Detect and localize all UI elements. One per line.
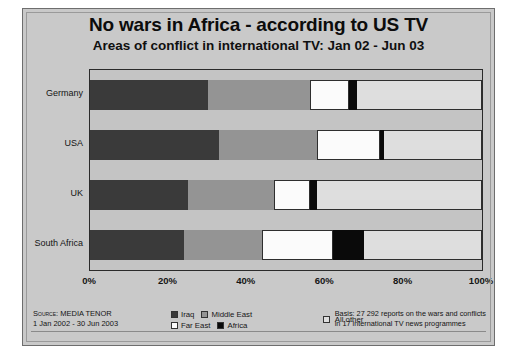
bar-segment-africa: [333, 230, 364, 260]
legend-swatch-iraq: [171, 311, 178, 318]
chart-subtitle: Areas of conflict in international TV: J…: [31, 37, 486, 54]
legend-swatch-far-east: [171, 322, 178, 329]
bar-segment-all-other: [384, 130, 482, 160]
title-block: No wars in Africa - according to US TV A…: [31, 14, 486, 54]
axis-label-south-africa: South Africa: [23, 238, 83, 248]
bar-segment-middle-east: [219, 130, 317, 160]
legend-label-far-east: Far East: [181, 321, 210, 330]
legend-swatch-middle-east: [201, 311, 208, 318]
chart-figure: No wars in Africa - according to US TV A…: [22, 8, 495, 346]
source-line-1: Source: MEDIA TENOR: [33, 309, 118, 319]
bar-segment-middle-east: [208, 80, 310, 110]
x-tick-label: 40%: [236, 275, 255, 286]
bar-segment-middle-east: [184, 230, 262, 260]
bar-row: [90, 180, 482, 210]
bar-segment-iraq: [90, 230, 184, 260]
x-tick-label: 20%: [158, 275, 177, 286]
bar-segment-all-other: [364, 230, 482, 260]
bar-row: [90, 230, 482, 260]
x-tick-label: 100%: [469, 275, 493, 286]
basis-line-2: in 17 international TV news programmes: [335, 319, 486, 329]
stacked-bar: [90, 80, 482, 110]
bar-row: [90, 130, 482, 160]
source-line-2: 1 Jan 2002 - 30 Jun 2003: [33, 319, 118, 329]
plot-area: [89, 69, 483, 271]
legend-item-africa[interactable]: Africa: [217, 321, 247, 330]
bar-segment-iraq: [90, 180, 188, 210]
axis-label-usa: USA: [23, 138, 83, 148]
bar-segment-africa: [310, 180, 318, 210]
page-title: No wars in Africa - according to US TV: [31, 14, 486, 36]
legend-label-middle-east: Middle East: [211, 310, 252, 319]
bar-segment-far-east: [310, 80, 349, 110]
source-note: Source: MEDIA TENOR 1 Jan 2002 - 30 Jun …: [33, 309, 118, 329]
legend-item-far-east[interactable]: Far East: [171, 321, 210, 330]
legend-swatch-africa: [217, 322, 224, 329]
bar-segment-iraq: [90, 130, 219, 160]
bar-segment-far-east: [274, 180, 309, 210]
bar-segment-africa: [349, 80, 357, 110]
x-tick-label: 60%: [315, 275, 334, 286]
legend-swatch-all-other: [323, 316, 330, 323]
axis-label-germany: Germany: [23, 88, 83, 98]
stacked-bar: [90, 230, 482, 260]
legend-item-middle-east[interactable]: Middle East: [201, 310, 252, 319]
footer-divider: [31, 331, 486, 332]
x-tick-label: 0%: [82, 275, 96, 286]
bar-row: [90, 80, 482, 110]
bar-segment-all-other: [317, 180, 482, 210]
legend-label-africa: Africa: [227, 321, 247, 330]
bar-segment-far-east: [262, 230, 333, 260]
bar-segment-all-other: [357, 80, 482, 110]
legend-label-iraq: Iraq: [181, 310, 194, 319]
stacked-bar: [90, 130, 482, 160]
legend-item-iraq[interactable]: Iraq: [171, 310, 194, 319]
bar-segment-iraq: [90, 80, 208, 110]
axis-label-uk: UK: [23, 188, 83, 198]
basis-note: Basis: 27 292 reports on the wars and co…: [335, 309, 486, 329]
stacked-bar: [90, 180, 482, 210]
bar-segment-far-east: [317, 130, 380, 160]
bar-segment-middle-east: [188, 180, 274, 210]
basis-line-1: Basis: 27 292 reports on the wars and co…: [335, 309, 486, 319]
x-tick-label: 80%: [393, 275, 412, 286]
